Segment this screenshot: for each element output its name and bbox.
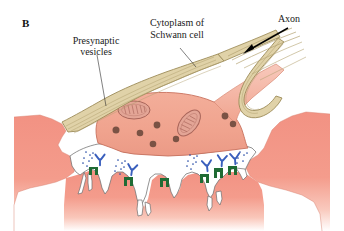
label-presynaptic-vesicles-line1: Presynaptic (73, 35, 120, 46)
label-cytoplasm-schwann-line1: Cytoplasm of (150, 17, 205, 28)
panel-letter: B (22, 17, 30, 29)
label-cytoplasm-schwann-line2: Schwann cell (150, 29, 204, 40)
label-presynaptic-vesicles-line2: vesicles (80, 46, 112, 57)
label-axon: Axon (278, 13, 300, 24)
figure-panel-b: B Presynaptic vesicles Cytoplasm of Schw… (0, 0, 344, 231)
